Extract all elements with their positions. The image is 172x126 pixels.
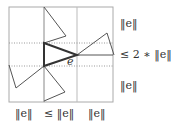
right-label-middle: ≤ 2 ∗ ‖e‖ bbox=[120, 48, 172, 62]
diagram-canvas: e ‖e‖ ≤ 2 ∗ ‖e‖ ‖e‖ ‖e‖ ≤ ‖e‖ ‖e‖ bbox=[0, 0, 172, 126]
bottom-triangle bbox=[44, 66, 65, 101]
bottom-label-right: ‖e‖ bbox=[88, 107, 106, 121]
right-triangle bbox=[77, 33, 114, 55]
bottom-label-middle: ≤ ‖e‖ bbox=[44, 107, 74, 121]
bottom-label-left: ‖e‖ bbox=[15, 107, 33, 121]
top-triangle bbox=[44, 7, 66, 43]
edge-label: e bbox=[67, 55, 74, 68]
left-triangle bbox=[9, 65, 44, 88]
right-label-bottom: ‖e‖ bbox=[120, 79, 138, 93]
right-label-top: ‖e‖ bbox=[120, 17, 138, 31]
